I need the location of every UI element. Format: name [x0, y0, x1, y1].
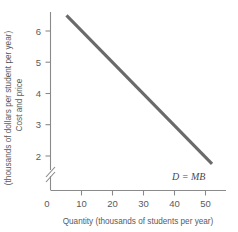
- x-tick-label-30: 30: [138, 198, 149, 209]
- demand-marginal-benefit-chart: 6 5 4 3 2 0 10 20 30 40 50 D = MB Quanti…: [0, 0, 238, 232]
- x-tick-label-10: 10: [76, 198, 87, 209]
- y-tick-label-6: 6: [36, 26, 41, 37]
- y-tick-label-2: 2: [36, 151, 41, 162]
- y-tick-label-5: 5: [36, 57, 41, 68]
- x-tick-label-50: 50: [200, 198, 211, 209]
- demand-curve-label: D = MB: [171, 171, 205, 182]
- y-tick-label-3: 3: [36, 119, 41, 130]
- y-axis-title-line2: (thousands of dollars per student per ye…: [4, 31, 13, 186]
- x-tick-label-0: 0: [44, 198, 49, 209]
- y-axis-title-line1: Cost and price: [15, 78, 24, 131]
- x-tick-label-20: 20: [107, 198, 118, 209]
- x-tick-label-40: 40: [169, 198, 180, 209]
- y-tick-label-4: 4: [36, 88, 41, 99]
- x-axis-title: Quantity (thousands of students per year…: [63, 217, 214, 226]
